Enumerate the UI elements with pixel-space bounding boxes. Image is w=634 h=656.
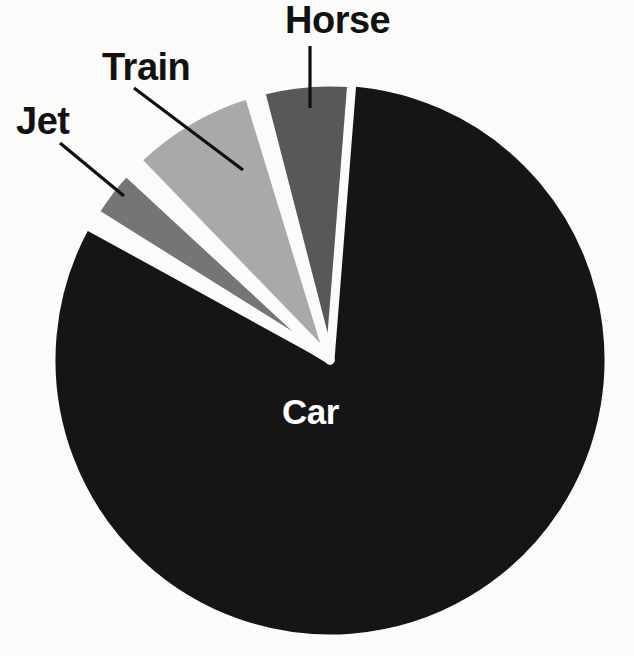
- slice-label-train: Train: [102, 48, 190, 86]
- slice-label-jet: Jet: [16, 102, 69, 140]
- slice-label-horse: Horse: [285, 1, 390, 39]
- pie-chart-figure: Jet Train Horse Car: [0, 0, 634, 656]
- slice-label-car: Car: [282, 394, 339, 429]
- pie-chart-svg: [0, 0, 634, 656]
